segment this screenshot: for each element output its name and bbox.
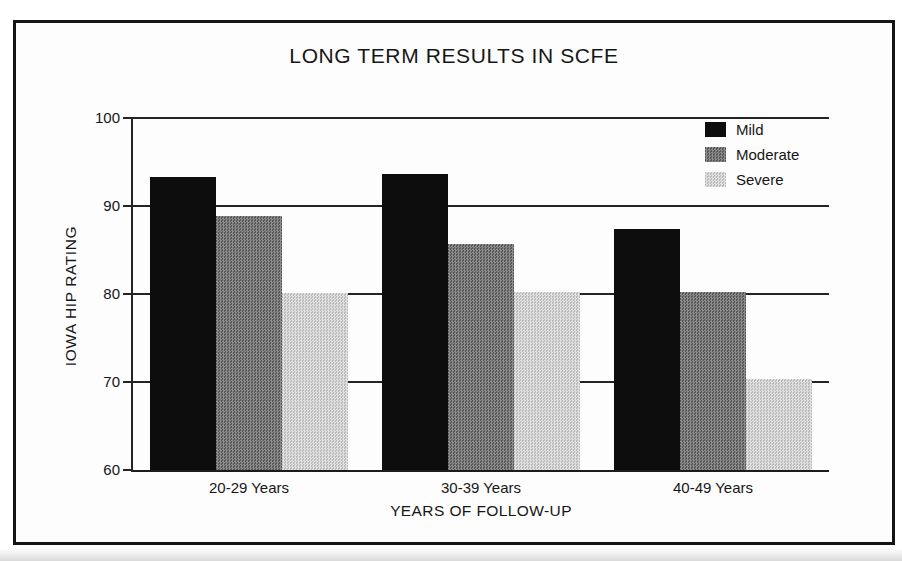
scan-shadow <box>0 548 902 561</box>
chart-page: LONG TERM RESULTS IN SCFE IOWA HIP RATIN… <box>0 0 902 561</box>
bar-moderate-20-29-years <box>216 216 282 472</box>
x-axis-title: YEARS OF FOLLOW-UP <box>133 502 829 520</box>
bar-moderate-30-39-years <box>448 244 514 472</box>
y-tick-label-80: 80 <box>72 285 120 302</box>
mild-swatch-icon <box>705 122 726 137</box>
y-tick-label-100: 100 <box>72 109 120 126</box>
legend-label-mild: Mild <box>736 121 764 138</box>
legend-label-moderate: Moderate <box>736 146 799 163</box>
bar-moderate-40-49-years <box>680 292 746 472</box>
bar-severe-40-49-years <box>746 379 812 472</box>
x-category-label-3: 40-49 Years <box>623 479 803 496</box>
legend-item-moderate: Moderate <box>705 147 825 162</box>
moderate-swatch-icon <box>705 147 726 162</box>
y-tick-label-90: 90 <box>72 197 120 214</box>
y-tick-label-60: 60 <box>72 461 120 478</box>
x-category-label-1: 20-29 Years <box>159 479 339 496</box>
bar-mild-40-49-years <box>614 229 680 472</box>
x-category-label-2: 30-39 Years <box>391 479 571 496</box>
y-tick-label-70: 70 <box>72 373 120 390</box>
y-axis-line <box>131 118 133 472</box>
legend-item-mild: Mild <box>705 122 825 137</box>
bar-mild-20-29-years <box>150 177 216 472</box>
bar-mild-30-39-years <box>382 174 448 472</box>
bar-severe-20-29-years <box>282 293 348 472</box>
chart-title: LONG TERM RESULTS IN SCFE <box>13 44 895 68</box>
gridline-100 <box>133 117 829 119</box>
legend-item-severe: Severe <box>705 172 825 187</box>
gridline-90 <box>133 205 829 207</box>
legend: Mild Moderate Severe <box>705 122 825 197</box>
severe-swatch-icon <box>705 172 726 187</box>
legend-label-severe: Severe <box>736 171 784 188</box>
bar-severe-30-39-years <box>514 292 580 472</box>
x-axis-baseline <box>133 470 829 472</box>
